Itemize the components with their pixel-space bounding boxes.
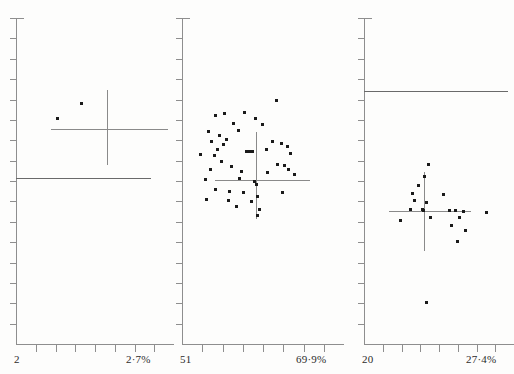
scatter-panel-1: 22·7% <box>0 0 176 374</box>
data-point <box>230 165 233 168</box>
data-point <box>237 129 240 132</box>
axis-tick-x <box>115 345 116 352</box>
data-point <box>207 130 210 133</box>
data-point <box>399 219 402 222</box>
axis-tick-y <box>176 140 183 141</box>
data-point <box>250 200 253 203</box>
data-point <box>411 192 414 195</box>
data-point <box>280 142 283 145</box>
axis-tick-y <box>176 38 183 39</box>
axis-tick-y <box>176 201 183 202</box>
axis-tick-y <box>358 181 365 182</box>
data-point <box>464 229 467 232</box>
axis-tick-x <box>243 345 244 352</box>
axis-tick-x <box>56 345 57 352</box>
data-point <box>243 111 246 114</box>
data-point <box>235 205 238 208</box>
data-point <box>281 191 284 194</box>
axis-tick-y <box>176 120 183 121</box>
axis-tick-y <box>358 222 365 223</box>
axis-tick-x <box>477 345 478 352</box>
axis-tick-y <box>358 283 365 284</box>
crosshair-vertical <box>256 132 257 219</box>
crosshair-vertical <box>107 90 108 165</box>
axis-tick-y <box>358 303 365 304</box>
axis-tick-y <box>358 324 365 325</box>
axis-tick-x <box>304 345 305 352</box>
axis-label-low: 2 <box>14 353 20 365</box>
data-point <box>204 178 207 181</box>
axis-tick-x <box>283 345 284 352</box>
axis-tick-y <box>176 181 183 182</box>
axis-tick-y <box>358 100 365 101</box>
axis-tick-y <box>10 38 17 39</box>
axis-tick-y <box>10 324 17 325</box>
data-point <box>283 164 286 167</box>
axis-tick-x <box>324 345 325 352</box>
data-point <box>287 168 290 171</box>
data-point <box>423 175 426 178</box>
data-point <box>225 138 228 141</box>
axis-tick-x <box>458 345 459 352</box>
axis-tick-y <box>10 120 17 121</box>
axis-tick-x <box>383 345 384 352</box>
axis-tick-x <box>495 345 496 352</box>
axis-label-low: 20 <box>362 353 373 365</box>
data-point <box>220 160 223 163</box>
data-point <box>227 199 230 202</box>
axis-label-high: 69·9% <box>296 353 326 365</box>
data-point <box>213 154 216 157</box>
crosshair-horizontal <box>215 180 310 181</box>
data-point <box>276 163 279 166</box>
axis-tick-y <box>176 100 183 101</box>
data-point <box>222 143 225 146</box>
data-point <box>275 99 278 102</box>
axis-tick-y <box>358 79 365 80</box>
axis-tick-y <box>176 283 183 284</box>
axis-tick-y <box>358 242 365 243</box>
data-point <box>454 209 457 212</box>
axis-tick-y <box>176 242 183 243</box>
axis-tick-x <box>223 345 224 352</box>
data-point <box>429 216 432 219</box>
axis-top-cap <box>16 18 24 19</box>
axis-tick-x <box>263 345 264 352</box>
axis-top-cap <box>182 18 190 19</box>
data-point <box>80 102 83 105</box>
axis-tick-y <box>176 79 183 80</box>
axis-tick-y <box>10 79 17 80</box>
crosshair-horizontal <box>389 211 471 212</box>
axis-tick-y <box>10 161 17 162</box>
data-point <box>256 195 259 198</box>
data-point <box>214 188 217 191</box>
axis-tick-y <box>358 161 365 162</box>
data-point <box>228 190 231 193</box>
data-point <box>254 117 257 120</box>
axis-tick-y <box>10 263 17 264</box>
axis-tick-y <box>358 140 365 141</box>
data-point <box>261 123 264 126</box>
axis-tick-y <box>176 222 183 223</box>
data-point <box>293 173 296 176</box>
data-point <box>199 153 202 156</box>
data-point <box>240 170 243 173</box>
axis-label-high: 2·7% <box>126 353 151 365</box>
data-point <box>232 122 235 125</box>
axis-tick-y <box>10 140 17 141</box>
data-point <box>223 112 226 115</box>
data-point <box>205 198 208 201</box>
data-point <box>427 163 430 166</box>
data-point <box>413 199 416 202</box>
data-point <box>256 214 259 217</box>
data-point <box>417 184 420 187</box>
axis-tick-x <box>75 345 76 352</box>
axis-tick-y <box>176 263 183 264</box>
data-point <box>266 171 269 174</box>
data-point <box>209 168 212 171</box>
axis-tick-y <box>10 242 17 243</box>
data-point <box>456 240 459 243</box>
axis-tick-y <box>10 303 17 304</box>
scatter-panel-3: 2027·4% <box>350 0 512 374</box>
axis-tick-y <box>10 283 17 284</box>
